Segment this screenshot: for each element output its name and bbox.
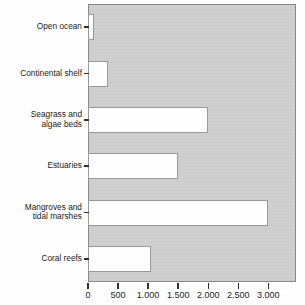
- bar-estuaries: [88, 153, 178, 179]
- y-axis-tick: [84, 212, 89, 213]
- x-axis-tick-label: 0: [85, 290, 90, 301]
- y-axis-label: Mangroves and tidal marshes: [0, 203, 82, 222]
- y-axis-label: Open ocean: [0, 22, 82, 32]
- x-axis-tick: [177, 283, 178, 289]
- y-axis-label: Continental shelf: [0, 69, 82, 79]
- y-axis-label: Coral reefs: [0, 254, 82, 264]
- y-axis-label: Estuaries: [0, 161, 82, 171]
- bar-mangroves-and-tidal-marshes: [88, 200, 268, 226]
- x-axis-tick: [87, 283, 88, 289]
- y-axis-labels: Open oceanContinental shelfSeagrass and …: [0, 0, 82, 305]
- x-axis-tick-label: 2.500: [227, 290, 250, 301]
- plot-area: [88, 4, 296, 282]
- x-axis-tick: [268, 283, 269, 289]
- x-axis-tick-label: 3.000: [257, 290, 280, 301]
- y-axis-tick: [84, 258, 89, 259]
- x-axis-tick: [238, 283, 239, 289]
- x-axis-tick-label: 500: [111, 290, 126, 301]
- y-axis-tick: [84, 73, 89, 74]
- y-axis-tick: [84, 119, 89, 120]
- x-axis-tick: [208, 283, 209, 289]
- x-axis-tick-label: 1.500: [167, 290, 190, 301]
- bar-chart: Open oceanContinental shelfSeagrass and …: [0, 0, 305, 305]
- bar-continental-shelf: [88, 61, 108, 87]
- y-axis-tick: [84, 26, 89, 27]
- bar-coral-reefs: [88, 246, 151, 272]
- x-axis-tick-label: 1.000: [137, 290, 160, 301]
- x-axis-tick-label: 2.000: [197, 290, 220, 301]
- y-axis-tick: [84, 165, 89, 166]
- x-axis-tick: [147, 283, 148, 289]
- y-axis-label: Seagrass and algae beds: [0, 110, 82, 129]
- bar-seagrass-and-algae-beds: [88, 107, 208, 133]
- x-axis-tick: [117, 283, 118, 289]
